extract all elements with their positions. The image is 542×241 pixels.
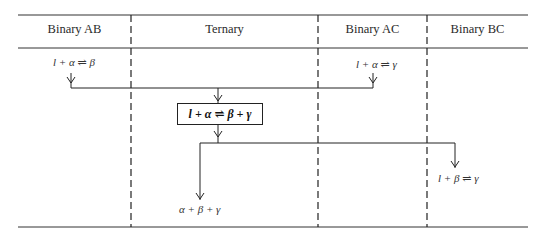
column-header-binary-ab: Binary AB <box>18 22 131 37</box>
column-header-binary-bc: Binary BC <box>427 22 528 37</box>
column-header-ternary: Ternary <box>131 22 318 37</box>
reaction-ac-peritectic: l + α ⇌ γ <box>356 58 397 71</box>
ternary-reaction-box: l + α ⇌ β + γ <box>177 103 263 125</box>
reaction-bc-peritectic: l + β ⇌ γ <box>438 172 479 185</box>
reaction-ternary-product: α + β + γ <box>179 203 220 215</box>
column-header-binary-ac: Binary AC <box>318 22 427 37</box>
reaction-ab-peritectic: l + α ⇌ β <box>53 56 95 69</box>
reaction-ternary-class: l + α ⇌ β + γ <box>189 107 252 122</box>
